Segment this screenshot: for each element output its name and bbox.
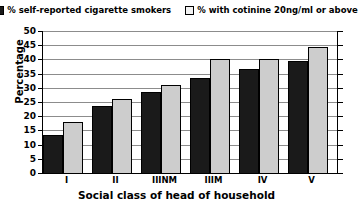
x-tick-label: V [287, 176, 336, 185]
y-tick-label: 15 [18, 126, 36, 135]
y-tick-mark [337, 31, 343, 32]
bars-layer [43, 31, 337, 173]
bar-group-v [288, 31, 337, 173]
y-tick-mark [337, 102, 343, 103]
bar-group-iv [239, 31, 288, 173]
y-tick-mark [337, 74, 343, 75]
x-tick-label: IV [238, 176, 287, 185]
bar-iiinm-series-2 [161, 85, 181, 173]
y-tick-label: 10 [18, 140, 36, 149]
legend-entry-self-reported: % self-reported cigarette smokers [0, 6, 171, 15]
bar-i-series-2 [63, 122, 83, 173]
x-tick-label: IIIM [189, 176, 238, 185]
y-axis-tick-labels: 05101520253035404550 [18, 24, 36, 180]
y-tick-mark [337, 159, 343, 160]
y-tick-label: 45 [18, 41, 36, 50]
y-tick-label: 35 [18, 69, 36, 78]
y-tick-mark [337, 130, 343, 131]
plot-area [42, 31, 338, 174]
bar-i-series-1 [43, 135, 63, 173]
x-axis-tick-labels: IIIIIINMIIIMIVV [42, 176, 336, 185]
chart-legend: % self-reported cigarette smokers % with… [0, 0, 353, 20]
dark-swatch-icon [0, 6, 4, 15]
bar-iiim-series-1 [190, 78, 210, 173]
y-tick-mark [337, 45, 343, 46]
bar-ii-series-1 [92, 106, 112, 173]
y-tick-mark [337, 59, 343, 60]
y-tick-mark [337, 88, 343, 89]
y-tick-label: 25 [18, 98, 36, 107]
y-tick-mark [337, 173, 343, 174]
bar-group-i [43, 31, 92, 173]
bar-iv-series-1 [239, 69, 259, 173]
bar-group-iiim [190, 31, 239, 173]
y-tick-label: 20 [18, 112, 36, 121]
x-tick-label: IIINM [140, 176, 189, 185]
y-tick-mark [337, 116, 343, 117]
legend-entry-cotinine: % with cotinine 20ng/ml or above [185, 6, 358, 15]
legend-label-cotinine: % with cotinine 20ng/ml or above [197, 6, 358, 15]
bar-v-series-1 [288, 61, 308, 173]
bar-group-ii [92, 31, 141, 173]
light-swatch-icon [185, 6, 194, 15]
bar-ii-series-2 [112, 99, 132, 173]
bar-v-series-2 [308, 47, 328, 173]
y-tick-label: 0 [18, 169, 36, 178]
bar-iiinm-series-1 [141, 92, 161, 173]
bar-group-iiinm [141, 31, 190, 173]
y-tick-label: 30 [18, 83, 36, 92]
x-tick-label: I [42, 176, 91, 185]
y-tick-mark [38, 173, 43, 174]
y-tick-label: 50 [18, 27, 36, 36]
legend-label-self-reported: % self-reported cigarette smokers [7, 6, 171, 15]
x-axis-title: Social class of head of household [0, 189, 353, 201]
x-tick-label: II [91, 176, 140, 185]
bar-iiim-series-2 [210, 59, 230, 173]
y-tick-label: 5 [18, 154, 36, 163]
y-tick-mark [337, 145, 343, 146]
y-tick-label: 40 [18, 55, 36, 64]
bar-iv-series-2 [259, 59, 279, 173]
